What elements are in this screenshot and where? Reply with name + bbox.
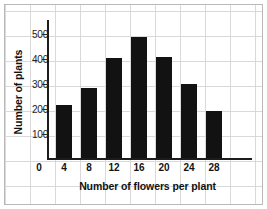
bar-20 [156,57,172,158]
y-tick-mark-200 [42,109,48,110]
bar-4 [56,105,72,158]
x-tick-24: 24 [177,162,201,173]
bar-8 [81,88,97,158]
x-tick-4: 4 [52,162,76,173]
x-axis-title: Number of flowers per plant [40,180,255,192]
x-tick-20: 20 [152,162,176,173]
x-tick-12: 12 [102,162,126,173]
bar-16 [131,37,147,158]
y-tick-mark-100 [42,134,48,135]
y-tick-mark-500 [42,34,48,35]
bar-chart: 500 400 300 200 100 0 4 8 12 16 20 24 28… [0,0,267,209]
y-tick-mark-400 [42,59,48,60]
x-tick-0: 0 [27,162,51,173]
y-tick-mark-300 [42,84,48,85]
bar-28 [206,111,222,158]
y-axis-title: Number of plants [12,32,24,152]
x-axis-line [47,158,252,160]
bar-12 [106,58,122,158]
x-tick-28: 28 [202,162,226,173]
x-tick-8: 8 [77,162,101,173]
bar-24 [181,84,197,158]
x-tick-16: 16 [127,162,151,173]
